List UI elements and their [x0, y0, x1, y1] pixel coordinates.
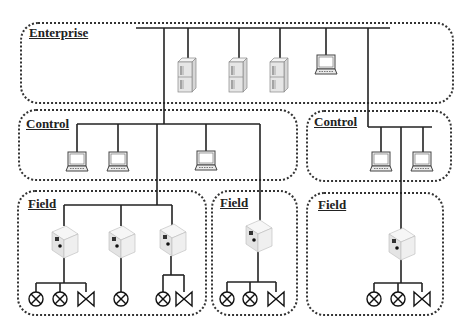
laptop-icon [411, 152, 433, 171]
lamp-icon [114, 292, 128, 306]
valve-icon [78, 292, 94, 306]
laptop-icon [195, 151, 217, 170]
lamp-icon [243, 292, 257, 306]
valve-icon [414, 292, 430, 306]
plc-icon [246, 220, 272, 252]
server-icon [270, 58, 288, 92]
laptop-icon [315, 55, 337, 74]
plc-icon [160, 224, 186, 256]
plc-icon [109, 226, 135, 258]
lamp-icon [29, 292, 43, 306]
lamp-icon [367, 292, 381, 306]
lamp-icon [156, 292, 170, 306]
laptop-icon [66, 152, 88, 171]
lamp-icon [53, 292, 67, 306]
laptop-icon [107, 152, 129, 171]
server-icon [178, 58, 196, 92]
valve-icon [176, 292, 192, 306]
server-icon [229, 58, 247, 92]
lamp-icon [220, 292, 234, 306]
network-diagram: Enterprise Control Control Field Field F… [0, 0, 460, 330]
valve-icon [268, 292, 284, 306]
lamp-icon [391, 292, 405, 306]
network-wiring [0, 0, 460, 330]
plc-icon [389, 228, 415, 260]
laptop-icon [370, 152, 392, 171]
plc-icon [52, 226, 78, 258]
